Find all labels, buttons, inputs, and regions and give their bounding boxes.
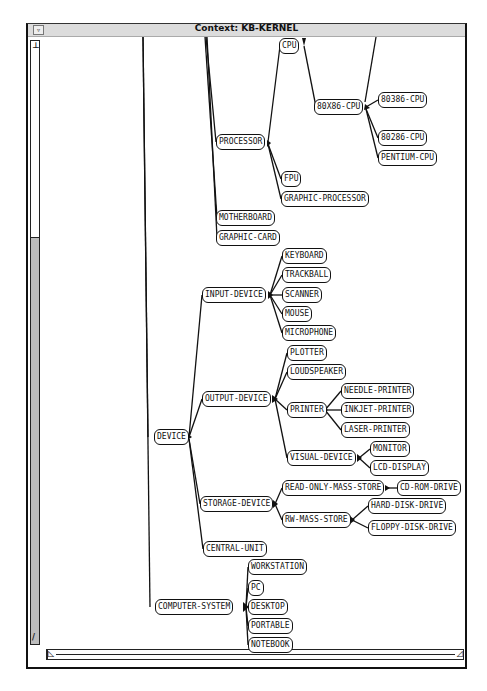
node-output-device[interactable]: OUTPUT-DEVICE xyxy=(202,391,271,407)
title-bar[interactable]: ▿ Context: KB-KERNEL xyxy=(28,24,465,37)
node-central-unit[interactable]: CENTRAL-UNIT xyxy=(203,541,267,557)
scroll-up-arrow-icon[interactable]: ⊥ xyxy=(32,42,39,50)
node-device[interactable]: DEVICE xyxy=(154,429,189,445)
node-fpu[interactable]: FPU xyxy=(281,171,301,187)
node-80286-cpu[interactable]: 80286-CPU xyxy=(378,130,427,146)
node-mouse[interactable]: MOUSE xyxy=(282,306,312,322)
node-rw-mass-store[interactable]: RW-MASS-STORE xyxy=(282,512,351,528)
node-workstation[interactable]: WORKSTATION xyxy=(248,559,307,575)
node-laser-printer[interactable]: LASER-PRINTER xyxy=(341,422,410,438)
node-pc[interactable]: PC xyxy=(248,580,264,596)
node-80386-cpu[interactable]: 80386-CPU xyxy=(378,92,427,108)
node-portable[interactable]: PORTABLE xyxy=(248,618,293,634)
scroll-left-arrow-icon[interactable]: ◺ xyxy=(48,650,54,658)
node-lcd-display[interactable]: LCD-DISPLAY xyxy=(370,460,429,476)
node-storage-device[interactable]: STORAGE-DEVICE xyxy=(200,496,273,512)
node-scanner[interactable]: SCANNER xyxy=(282,287,322,303)
node-microphone[interactable]: MICROPHONE xyxy=(282,325,336,341)
node-cpu[interactable]: CPU xyxy=(279,38,299,54)
node-pentium-cpu[interactable]: PENTIUM-CPU xyxy=(378,150,437,166)
node-plotter[interactable]: PLOTTER xyxy=(287,345,327,361)
horizontal-scroll-thumb[interactable] xyxy=(56,654,455,657)
node-desktop[interactable]: DESKTOP xyxy=(248,599,288,615)
node-processor[interactable]: PROCESSOR xyxy=(216,134,265,150)
node-computer-system[interactable]: COMPUTER-SYSTEM xyxy=(155,599,233,615)
kb-kernel-window: ▿ Context: KB-KERNEL ⊥ / ◺ ◿ xyxy=(26,23,467,669)
scroll-down-arrow-icon[interactable]: / xyxy=(32,634,35,642)
window-title: Context: KB-KERNEL xyxy=(28,23,465,33)
node-80x86-cpu[interactable]: 80X86-CPU xyxy=(314,99,363,115)
node-graphic-processor[interactable]: GRAPHIC-PROCESSOR xyxy=(281,191,369,207)
node-floppy-disk-drive[interactable]: FLOPPY-DISK-DRIVE xyxy=(368,520,456,536)
node-trackball[interactable]: TRACKBALL xyxy=(282,267,331,283)
node-inkjet-printer[interactable]: INKJET-PRINTER xyxy=(341,402,414,418)
node-motherboard[interactable]: MOTHERBOARD xyxy=(216,210,275,226)
node-monitor[interactable]: MONITOR xyxy=(370,441,410,457)
scroll-right-arrow-icon[interactable]: ◿ xyxy=(457,650,463,658)
node-input-device[interactable]: INPUT-DEVICE xyxy=(202,287,266,303)
node-loudspeaker[interactable]: LOUDSPEAKER xyxy=(287,364,346,380)
node-needle-printer[interactable]: NEEDLE-PRINTER xyxy=(341,383,414,399)
node-read-only-mass-store[interactable]: READ-ONLY-MASS-STORE xyxy=(282,480,384,496)
node-visual-device[interactable]: VISUAL-DEVICE xyxy=(287,450,356,466)
node-keyboard[interactable]: KEYBOARD xyxy=(282,248,327,264)
node-cd-rom-drive[interactable]: CD-ROM-DRIVE xyxy=(397,480,461,496)
node-notebook[interactable]: NOTEBOOK xyxy=(248,637,293,653)
vertical-scroll-thumb[interactable]: ⊥ xyxy=(31,41,39,238)
vertical-scrollbar[interactable]: ⊥ / xyxy=(30,40,40,645)
node-hard-disk-drive[interactable]: HARD-DISK-DRIVE xyxy=(368,498,446,514)
node-graphic-card[interactable]: GRAPHIC-CARD xyxy=(216,230,280,246)
node-printer[interactable]: PRINTER xyxy=(287,402,327,418)
